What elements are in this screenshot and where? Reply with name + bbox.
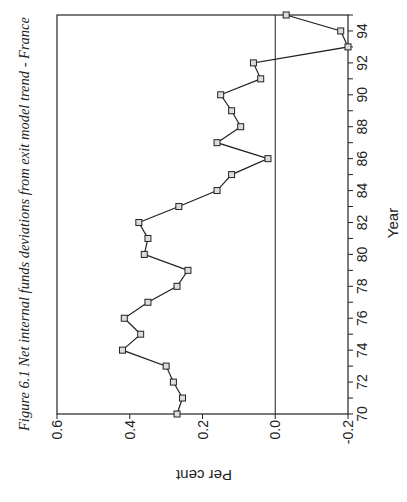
data-point-marker [185,267,191,273]
data-point-marker [163,363,169,369]
data-point-marker [119,347,125,353]
data-point-marker [265,156,271,162]
data-point-marker [218,92,224,98]
data-point-marker [229,172,235,178]
data-point-marker [174,283,180,289]
year-tick-label: 70 [354,406,370,422]
plot-frame [57,15,348,414]
x-axis-label: Year [384,208,401,238]
year-tick-label: 74 [354,342,370,358]
data-markers [119,12,351,417]
data-point-marker [238,124,244,130]
year-tick-label: 86 [354,151,370,167]
data-point-marker [174,411,180,417]
data-point-marker [179,395,185,401]
year-tick-label: 88 [354,119,370,135]
chart-title: Figure 6.1 Net internal funds deviations… [16,16,32,432]
data-point-marker [176,204,182,210]
data-point-marker [214,140,220,146]
data-point-marker [136,219,142,225]
data-point-marker [338,28,344,34]
year-tick-label: 76 [354,310,370,326]
data-point-marker [145,299,151,305]
value-tick-label: 0.2 [195,420,211,440]
year-tick-label: 80 [354,246,370,262]
y-axis-label: Per cent [175,467,232,484]
data-point-marker [345,44,351,50]
year-tick-label: 84 [354,183,370,199]
value-tick-label: -0.2 [340,420,356,444]
year-tick-label: 78 [354,278,370,294]
value-tick-label: 0.6 [49,420,65,440]
data-point-marker [258,76,264,82]
data-point-marker [229,108,235,114]
data-series-line [122,15,348,414]
chart-figure: Figure 6.1 Net internal funds deviations… [0,0,407,502]
year-tick-label: 94 [354,23,370,39]
data-point-marker [170,379,176,385]
value-tick-label: 0.0 [267,420,283,440]
year-tick-label: 82 [354,214,370,230]
year-tick-label: 72 [354,374,370,390]
data-point-marker [214,188,220,194]
data-point-marker [121,315,127,321]
value-tick-label: 0.4 [122,420,138,440]
data-point-marker [250,60,256,66]
data-point-marker [141,251,147,257]
year-tick-label: 90 [354,87,370,103]
data-point-marker [145,235,151,241]
year-tick-label: 92 [354,55,370,71]
year-axis-ticks: 70727476788082848688909294 [348,15,370,422]
value-axis-ticks: 0.60.40.20.0-0.2 [49,414,356,444]
data-point-marker [283,12,289,18]
data-point-marker [138,331,144,337]
